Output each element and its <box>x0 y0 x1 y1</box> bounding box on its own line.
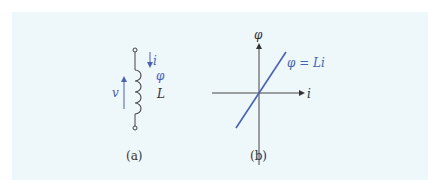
bottom-terminal-icon <box>133 126 137 130</box>
caption-a: (a) <box>126 150 143 162</box>
figure-drawing <box>0 0 436 187</box>
inductance-label: L <box>157 88 165 100</box>
voltage-label: v <box>112 87 119 99</box>
coil-icon <box>135 70 141 114</box>
y-axis-label: φ <box>254 29 262 41</box>
x-axis-label: i <box>307 88 311 100</box>
inductor-symbol <box>133 48 141 130</box>
caption-b: (b) <box>250 150 267 162</box>
top-terminal-icon <box>133 48 137 52</box>
flux-line <box>236 52 286 128</box>
line-equation-label: φ = Li <box>287 57 325 69</box>
flux-label: φ <box>156 70 164 82</box>
current-label: i <box>153 55 157 67</box>
